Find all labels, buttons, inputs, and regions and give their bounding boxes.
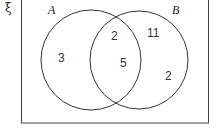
region-intersection-top: 2 <box>111 29 118 43</box>
venn-diagram: ξ A B 3 2 5 11 2 <box>0 0 216 134</box>
region-b-only-top: 11 <box>147 26 160 40</box>
set-b-label: B <box>172 3 180 17</box>
region-a-only: 3 <box>58 51 65 65</box>
universal-set-symbol: ξ <box>5 1 12 15</box>
region-intersection-bottom: 5 <box>120 56 127 70</box>
set-a-label: A <box>47 3 56 17</box>
region-b-only-bottom: 2 <box>165 69 172 83</box>
universal-set-rectangle <box>22 0 209 123</box>
set-b-circle <box>90 11 188 109</box>
